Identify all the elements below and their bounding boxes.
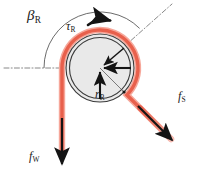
label-tau-R: τR (66, 20, 75, 32)
label-beta-R: βR (27, 8, 41, 23)
force-s-arrow (138, 106, 172, 140)
figure-canvas: βR τR rR fS fW (0, 0, 204, 174)
diagram-svg (0, 0, 204, 174)
label-r-R: rR (95, 88, 105, 100)
torque-curved-arrow (88, 20, 110, 25)
label-f-S: fS (178, 90, 185, 102)
label-f-W: fW (29, 150, 39, 162)
